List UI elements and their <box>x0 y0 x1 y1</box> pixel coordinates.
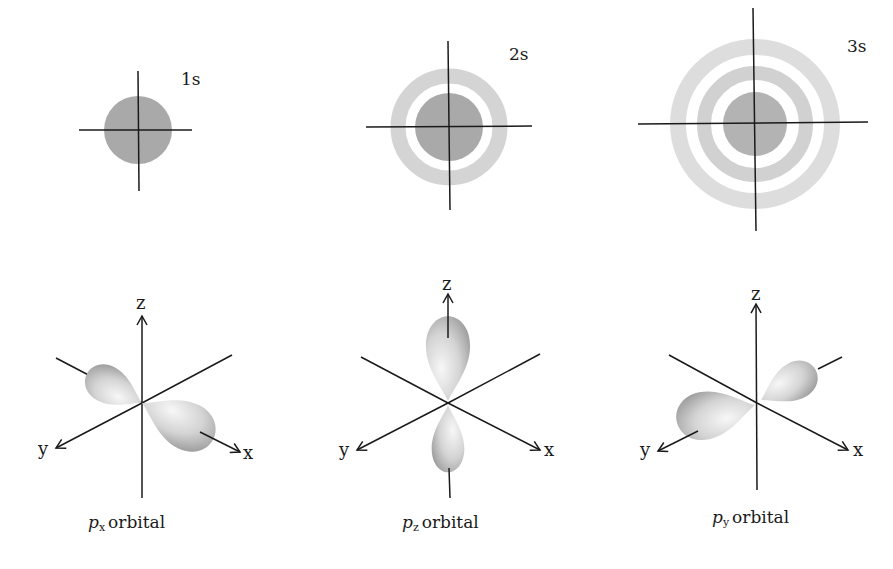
orbital-px <box>56 316 240 498</box>
px-z-label: z <box>136 294 145 312</box>
py-y-axis-back <box>818 357 842 369</box>
1s-vertical-axis <box>138 71 139 191</box>
orbital-3s <box>638 8 868 231</box>
pz-lobe-bottom <box>432 405 465 472</box>
px-y-axis <box>56 403 142 448</box>
caption-pz-suffix: orbital <box>422 512 479 532</box>
px-lobe-front <box>131 382 224 461</box>
caption-px-letter: p <box>88 512 99 532</box>
pz-x-label: x <box>544 441 554 459</box>
py-lobe-front <box>672 382 760 446</box>
py-x-axis <box>757 403 848 450</box>
py-z-axis <box>756 304 757 490</box>
pz-y-label: y <box>339 441 349 459</box>
pz-z-label: z <box>442 275 451 293</box>
pz-z-axis-bottom <box>449 468 450 498</box>
label-1s: 1s <box>181 71 201 88</box>
px-lobe-back <box>78 357 151 419</box>
px-x-axis-upper <box>142 355 232 403</box>
caption-py-letter: p <box>712 507 723 527</box>
caption-py: pyorbital <box>712 509 789 528</box>
py-x-label: x <box>853 441 863 459</box>
orbital-pz <box>357 294 540 498</box>
caption-px: pxorbital <box>88 514 165 533</box>
px-x-label: x <box>243 444 253 462</box>
py-z-label: z <box>751 285 760 303</box>
caption-py-suffix: orbital <box>732 507 789 527</box>
py-y-label: y <box>640 441 650 459</box>
caption-py-subscript: y <box>723 516 729 529</box>
caption-px-suffix: orbital <box>108 512 165 532</box>
orbital-py <box>658 304 848 490</box>
orbital-1s <box>79 71 192 191</box>
orbital-2s <box>366 41 532 210</box>
py-lobe-back <box>752 353 825 416</box>
caption-pz-subscript: z <box>413 521 419 534</box>
caption-pz-letter: p <box>402 512 413 532</box>
label-2s: 2s <box>509 46 529 63</box>
caption-px-subscript: x <box>99 521 105 534</box>
py-y-axis <box>658 431 698 451</box>
px-y-label: y <box>38 440 48 458</box>
label-3s: 3s <box>847 38 867 55</box>
caption-pz: pzorbital <box>402 514 479 533</box>
